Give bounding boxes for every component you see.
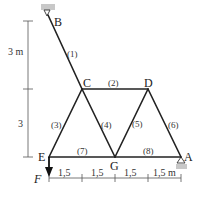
load-arrow-icon	[45, 157, 53, 177]
member-label-5: (5)	[132, 119, 143, 129]
vertical-dimension: 3 m 3	[7, 21, 33, 157]
member-label-1: (1)	[67, 49, 78, 59]
joint-label-d: D	[144, 76, 153, 90]
joint-label-c: C	[83, 76, 91, 90]
dim-vertical-2: 3	[18, 118, 23, 129]
member-label-3: (3)	[51, 120, 62, 130]
joint-label-a: A	[184, 150, 193, 164]
member-label-8: (8)	[143, 146, 154, 156]
joint-label-b: B	[54, 15, 62, 29]
dim-horizontal-4: 1,5 m	[153, 167, 176, 178]
member-label-6: (6)	[168, 120, 179, 130]
dim-horizontal-1: 1,5	[58, 167, 71, 178]
dim-horizontal-2: 1,5	[91, 167, 104, 178]
member-label-2: (2)	[108, 78, 119, 88]
member-label-7: (7)	[77, 146, 88, 156]
member-label-4: (4)	[101, 120, 112, 130]
joint-label-g: G	[110, 159, 119, 173]
joint-label-e: E	[38, 150, 45, 164]
truss-diagram: 3 m 3 1,5 1,5 1,5 1,5 m	[0, 0, 199, 203]
dim-vertical-1: 3 m	[8, 46, 24, 57]
load-label: F	[33, 172, 42, 186]
dim-horizontal-3: 1,5	[124, 167, 137, 178]
